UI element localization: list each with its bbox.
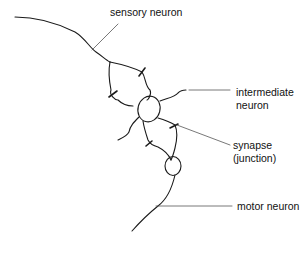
neuron-diagram xyxy=(0,0,307,262)
motor-neuron-body xyxy=(165,157,181,176)
intermediate-axon-down xyxy=(143,121,171,160)
leader-lines xyxy=(92,24,232,206)
intermediate-dendrite-left xyxy=(118,117,139,140)
label-synapse-line2: (junction) xyxy=(233,152,276,164)
label-intermediate-neuron-line1: intermediate xyxy=(236,86,294,98)
synapse-marks xyxy=(109,68,178,146)
label-sensory-neuron: sensory neuron xyxy=(110,6,182,18)
sensory-branch-lower xyxy=(109,62,133,106)
motor-neuron-axon xyxy=(132,175,175,231)
leader-synapse xyxy=(177,125,230,145)
intermediate-dendrite-right xyxy=(160,90,186,101)
label-intermediate-neuron-line2: neuron xyxy=(236,99,269,111)
label-motor-neuron: motor neuron xyxy=(237,200,299,212)
leader-sensory xyxy=(92,24,118,50)
label-synapse-line1: synapse xyxy=(233,139,272,151)
synapse-mark xyxy=(139,68,145,76)
sensory-neuron-axon xyxy=(15,17,110,62)
